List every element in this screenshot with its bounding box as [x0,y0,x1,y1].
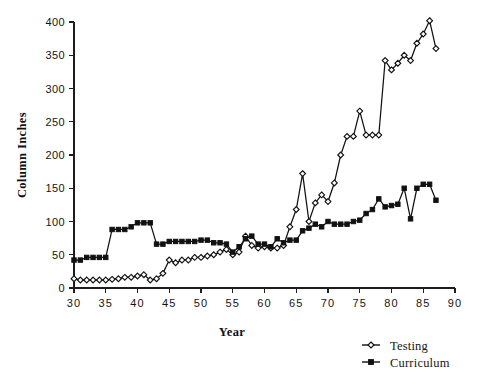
data-point-marker [192,255,198,261]
data-point-marker [91,255,95,259]
x-axis-tick-group: 30354045505560657075808590 [67,288,462,309]
chart-figure: 050100150200250300350400 303540455055606… [0,0,483,381]
legend-label: Testing [390,339,429,353]
legend-marker-filled-square-icon [369,360,374,365]
data-point-marker [351,133,357,139]
data-point-marker [262,242,266,246]
data-point-marker [274,245,280,251]
data-point-marker [427,182,431,186]
data-point-marker [370,132,376,138]
legend-marker-open-diamond-icon [368,342,374,348]
y-tick-label: 250 [45,116,65,128]
data-point-marker [281,241,285,245]
y-tick-label: 100 [45,216,65,228]
data-point-marker [199,238,203,242]
data-point-marker [269,245,273,249]
y-tick-label: 0 [58,282,65,294]
data-point-marker [389,203,393,207]
data-point-marker [192,239,196,243]
y-tick-label: 200 [45,149,65,161]
data-point-marker [116,276,122,282]
data-point-marker [275,237,279,241]
data-point-marker [231,250,235,254]
data-point-marker [110,227,114,231]
x-tick-label: 90 [448,297,462,309]
data-point-marker [90,277,96,283]
data-point-marker [128,274,134,280]
data-point-marker [313,222,317,226]
x-tick-label: 55 [226,297,240,309]
data-point-marker [319,225,323,229]
data-point-marker [161,242,165,246]
x-tick-label: 40 [130,297,144,309]
data-point-marker [129,225,133,229]
data-point-marker [383,205,387,209]
data-point-marker [287,224,293,230]
data-point-marker [307,226,311,230]
line-chart-canvas: 050100150200250300350400 303540455055606… [0,0,483,381]
data-point-marker [370,207,374,211]
x-tick-label: 45 [162,297,176,309]
data-point-marker [97,277,103,283]
data-point-marker [288,238,292,242]
data-point-marker [408,217,412,221]
chart-legend: TestingCurriculum [362,339,450,370]
data-point-marker [123,227,127,231]
data-point-marker [104,255,108,259]
data-point-marker [135,273,141,279]
data-point-marker [300,229,304,233]
x-tick-label: 50 [194,297,208,309]
data-point-marker [198,255,204,261]
data-point-marker [376,132,382,138]
legend-label: Curriculum [390,356,450,370]
series-testing [71,18,439,283]
data-point-marker [357,108,363,114]
y-axis-tick-group: 050100150200250300350400 [45,16,74,294]
data-point-marker [205,238,209,242]
data-point-marker [84,277,90,283]
data-point-marker [148,221,152,225]
legend-entry-testing[interactable]: Testing [362,339,429,353]
data-point-marker [71,276,77,282]
y-axis-title: Column Inches [15,112,29,198]
data-point-marker [154,242,158,246]
data-point-marker [402,186,406,190]
series-layer [71,18,439,283]
data-point-marker [116,227,120,231]
data-point-marker [135,221,139,225]
x-tick-label: 70 [321,297,335,309]
y-tick-label: 350 [45,49,65,61]
data-point-marker [122,274,128,280]
data-point-marker [97,255,101,259]
x-axis-title: Year [219,325,246,339]
data-point-marker [212,241,216,245]
series-line-curriculum [74,184,436,260]
data-point-marker [236,249,242,255]
data-point-marker [250,234,254,238]
data-point-marker [421,182,425,186]
data-point-marker [77,277,83,283]
data-point-marker [433,46,439,52]
data-point-marker [331,180,337,186]
y-tick-label: 50 [52,249,65,261]
data-point-marker [243,237,247,241]
x-tick-label: 60 [257,297,271,309]
data-point-marker [351,219,355,223]
data-point-marker [427,18,433,24]
data-point-marker [237,245,241,249]
data-point-marker [326,219,330,223]
data-point-marker [256,242,260,246]
data-point-marker [173,239,177,243]
data-point-marker [218,241,222,245]
legend-entry-curriculum[interactable]: Curriculum [362,356,450,370]
x-tick-label: 85 [416,297,430,309]
data-point-marker [358,218,362,222]
x-tick-label: 75 [353,297,367,309]
y-tick-label: 300 [45,83,65,95]
data-point-marker [186,239,190,243]
data-point-marker [345,222,349,226]
data-point-marker [85,255,89,259]
data-point-marker [396,202,400,206]
x-tick-label: 30 [67,297,81,309]
data-point-marker [211,252,217,258]
